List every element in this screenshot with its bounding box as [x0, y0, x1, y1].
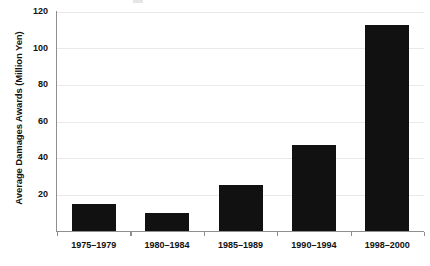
y-tick-label: 80 [14, 79, 48, 89]
bar [219, 185, 263, 231]
x-tick-mark [424, 232, 425, 236]
x-category-label: 1998–2000 [342, 240, 430, 250]
x-tick-mark [204, 232, 205, 236]
x-tick-mark [277, 232, 278, 236]
bar [72, 204, 116, 231]
bar [292, 145, 336, 231]
x-tick-mark [130, 232, 131, 236]
y-tick-label: 120 [14, 6, 48, 16]
x-axis-line [57, 231, 424, 232]
y-tick-label: 100 [14, 43, 48, 53]
y-tick-label: 20 [14, 189, 48, 199]
cropped-title-artifact [133, 0, 143, 3]
bar [145, 213, 189, 231]
y-tick-label: 40 [14, 152, 48, 162]
plot-area [57, 12, 424, 231]
bar [365, 25, 409, 231]
y-tick-label: 60 [14, 116, 48, 126]
x-tick-mark [351, 232, 352, 236]
bar-chart-figure: Average Damages Awards (Million Yen) 204… [0, 0, 430, 266]
x-tick-mark [57, 232, 58, 236]
